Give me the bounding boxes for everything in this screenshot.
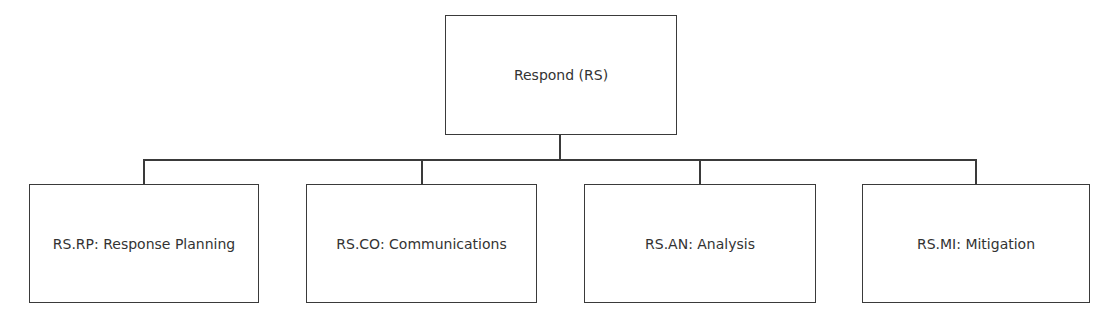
connector-child-4 <box>975 159 977 185</box>
connector-child-2 <box>421 159 423 185</box>
child-node-communications: RS.CO: Communications <box>306 184 537 303</box>
connector-child-3 <box>699 159 701 185</box>
child-node-label: RS.AN: Analysis <box>645 236 755 252</box>
child-node-label: RS.CO: Communications <box>336 236 506 252</box>
root-node-label: Respond (RS) <box>514 67 608 83</box>
child-node-response-planning: RS.RP: Response Planning <box>29 184 259 303</box>
connector-root-down <box>559 134 561 160</box>
connector-horizontal-bus <box>143 159 977 161</box>
root-node-respond: Respond (RS) <box>445 15 677 135</box>
connector-child-1 <box>143 159 145 185</box>
child-node-label: RS.MI: Mitigation <box>917 236 1035 252</box>
child-node-label: RS.RP: Response Planning <box>53 236 235 252</box>
child-node-mitigation: RS.MI: Mitigation <box>862 184 1090 303</box>
child-node-analysis: RS.AN: Analysis <box>584 184 816 303</box>
